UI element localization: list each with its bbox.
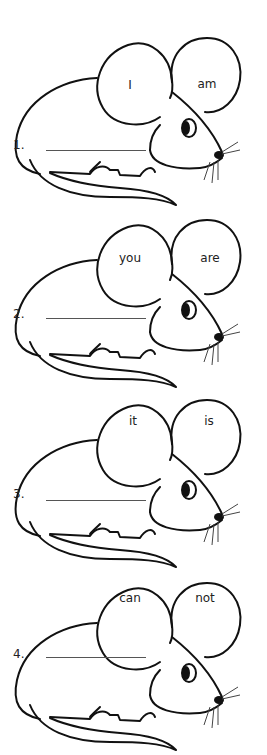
ear-word-1: it <box>103 414 163 428</box>
item-number: 3. <box>13 487 24 501</box>
ear-word-2: am <box>177 77 237 91</box>
ear-word-2: not <box>175 591 235 605</box>
answer-blank[interactable] <box>46 657 146 658</box>
answer-blank[interactable] <box>46 150 146 151</box>
ear-word-1: you <box>100 251 160 265</box>
ear-word-1: I <box>100 78 160 92</box>
ear-word-2: is <box>179 414 239 428</box>
item-number: 4. <box>13 647 24 661</box>
answer-blank[interactable] <box>46 500 146 501</box>
answer-blank[interactable] <box>46 318 146 319</box>
mouse-drawing-icon <box>0 545 267 755</box>
item-number: 2. <box>13 307 24 321</box>
mouse-item-4: can not 4. <box>0 545 267 755</box>
item-number: 1. <box>13 138 24 152</box>
ear-word-1: can <box>100 591 160 605</box>
ear-word-2: are <box>180 251 240 265</box>
